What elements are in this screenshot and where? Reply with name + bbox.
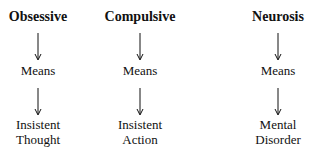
heading-neurosis: Neurosis: [223, 9, 317, 25]
column-neurosis: Neurosis Means Mental Disorder: [223, 0, 317, 155]
heading-obsessive: Obsessive: [0, 9, 93, 25]
means-label: Means: [0, 63, 93, 78]
down-arrow-icon: [33, 88, 43, 116]
result-line-1: Insistent: [85, 117, 195, 132]
result-label: Insistent Thought: [0, 117, 93, 147]
means-label: Means: [85, 63, 195, 78]
result-line-1: Mental: [223, 117, 317, 132]
down-arrow-icon: [273, 88, 283, 116]
result-line-2: Action: [85, 132, 195, 147]
result-line-1: Insistent: [0, 117, 93, 132]
down-arrow-icon: [135, 88, 145, 116]
result-line-2: Thought: [0, 132, 93, 147]
result-label: Mental Disorder: [223, 117, 317, 147]
result-label: Insistent Action: [85, 117, 195, 147]
down-arrow-icon: [135, 33, 145, 61]
down-arrow-icon: [273, 33, 283, 61]
down-arrow-icon: [33, 33, 43, 61]
means-label: Means: [223, 63, 317, 78]
result-line-2: Disorder: [223, 132, 317, 147]
column-obsessive: Obsessive Means Insistent Thought: [0, 0, 93, 155]
column-compulsive: Compulsive Means Insistent Action: [85, 0, 195, 155]
heading-compulsive: Compulsive: [85, 9, 195, 25]
